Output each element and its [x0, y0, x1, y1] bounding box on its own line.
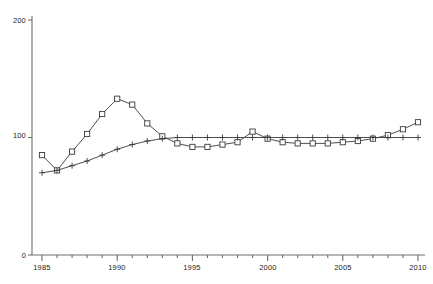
- y-tick-label-0: 0: [6, 251, 26, 260]
- series-square-series: [39, 96, 420, 173]
- chart-plot-svg: [0, 0, 433, 284]
- data-point-square: [69, 149, 74, 154]
- data-point-square: [175, 141, 180, 146]
- series-plus-series: [39, 135, 421, 176]
- data-point-square: [130, 102, 135, 107]
- data-point-square: [85, 131, 90, 136]
- series-line-1: [42, 138, 418, 173]
- x-tick-label-2000: 2000: [254, 263, 282, 272]
- data-point-square: [100, 111, 105, 116]
- data-point-square: [115, 96, 120, 101]
- data-point-square: [205, 144, 210, 149]
- x-tick-label-1985: 1985: [28, 263, 56, 272]
- data-point-square: [39, 153, 44, 158]
- data-point-square: [250, 129, 255, 134]
- data-point-square: [295, 141, 300, 146]
- y-tick-label-200: 200: [6, 16, 26, 25]
- data-point-square: [145, 121, 150, 126]
- x-tick-label-2010: 2010: [404, 263, 432, 272]
- x-tick-label-1990: 1990: [103, 263, 131, 272]
- data-point-square: [325, 141, 330, 146]
- data-point-square: [220, 142, 225, 147]
- y-tick-label-100: 100: [6, 131, 26, 140]
- data-point-square: [415, 120, 420, 125]
- data-point-square: [310, 141, 315, 146]
- data-point-square: [190, 144, 195, 149]
- chart-container: 200 100 0 1985 1990 1995 2000 2005 2010: [0, 0, 433, 284]
- x-tick-label-2005: 2005: [329, 263, 357, 272]
- x-tick-label-1995: 1995: [178, 263, 206, 272]
- series-line-0: [42, 99, 418, 171]
- data-point-square: [400, 127, 405, 132]
